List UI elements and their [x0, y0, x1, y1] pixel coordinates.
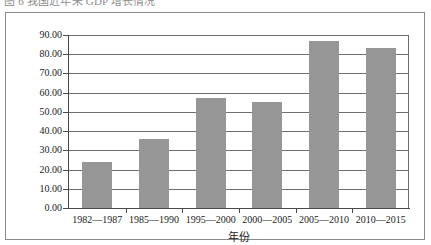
y-axis-tick-label: 10.00	[8, 184, 62, 194]
bar	[82, 162, 112, 208]
y-axis-tick-label: 20.00	[8, 165, 62, 175]
y-axis-tick-label: 50.00	[8, 107, 62, 117]
figure-frame: 0.0010.0020.0030.0040.0050.0060.0070.008…	[5, 12, 425, 240]
x-axis-tick-label: 2000—2005	[239, 214, 296, 226]
x-axis-tick-label: 1985—1990	[126, 214, 183, 226]
y-axis-tick	[63, 208, 69, 209]
y-axis-tick-label: 70.00	[8, 68, 62, 78]
y-axis-tick-label: 40.00	[8, 126, 62, 136]
gridline	[69, 150, 409, 151]
y-axis-tick-label: 30.00	[8, 145, 62, 155]
gridline	[69, 35, 409, 36]
plot-right-border	[408, 35, 409, 208]
gridline	[69, 93, 409, 94]
plot-area	[69, 35, 409, 208]
y-axis-tick	[63, 54, 69, 55]
x-axis-title: 年份	[69, 228, 409, 244]
bar	[252, 102, 282, 208]
x-axis-tick-label: 2005—2010	[296, 214, 353, 226]
x-axis-tick	[352, 208, 353, 213]
x-axis-tick-label: 1995—2000	[182, 214, 239, 226]
figure-caption-text: 图 6 我国近年来 GDP 增长情况	[4, 0, 156, 8]
gridline	[69, 131, 409, 132]
y-axis-labels: 0.0010.0020.0030.0040.0050.0060.0070.008…	[6, 13, 62, 241]
bar	[366, 48, 396, 208]
gridline	[69, 189, 409, 190]
y-axis-tick-label: 90.00	[8, 30, 62, 40]
y-axis-line	[68, 35, 69, 209]
gridline	[69, 54, 409, 55]
y-axis-tick	[63, 189, 69, 190]
gridline	[69, 73, 409, 74]
bar	[196, 98, 226, 208]
y-axis-tick	[63, 93, 69, 94]
x-axis-tick	[239, 208, 240, 213]
x-axis-tick	[296, 208, 297, 213]
x-axis-tick-label: 2010—2015	[352, 214, 409, 226]
x-axis-tick	[126, 208, 127, 213]
y-axis-tick-label: 60.00	[8, 88, 62, 98]
gridline	[69, 112, 409, 113]
y-axis-tick	[63, 35, 69, 36]
y-axis-tick	[63, 112, 69, 113]
x-axis-tick	[182, 208, 183, 213]
y-axis-tick	[63, 131, 69, 132]
y-axis-tick	[63, 150, 69, 151]
gridline	[69, 170, 409, 171]
bar	[309, 41, 339, 208]
figure-caption-strip: 图 6 我国近年来 GDP 增长情况	[0, 0, 431, 9]
bar	[139, 139, 169, 208]
y-axis-tick	[63, 170, 69, 171]
y-axis-tick-label: 80.00	[8, 49, 62, 59]
x-axis-tick-label: 1982—1987	[69, 214, 126, 226]
x-axis-labels: 1982—19871985—19901995—20002000—20052005…	[69, 214, 409, 228]
y-axis-tick	[63, 73, 69, 74]
y-axis-tick-label: 0.00	[8, 203, 62, 213]
